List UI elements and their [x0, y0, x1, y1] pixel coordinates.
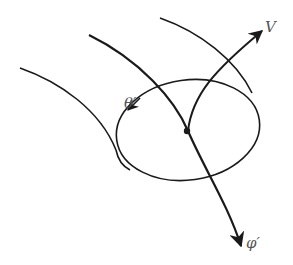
v-arrow [188, 31, 262, 131]
phi-label: φ′ [246, 236, 260, 251]
diagram-canvas [0, 0, 293, 265]
cusp-join [116, 150, 130, 170]
left-field-line [20, 68, 116, 150]
theta-label: θ′ [124, 96, 136, 111]
v-label: V [265, 20, 276, 35]
origin-point [184, 128, 190, 134]
